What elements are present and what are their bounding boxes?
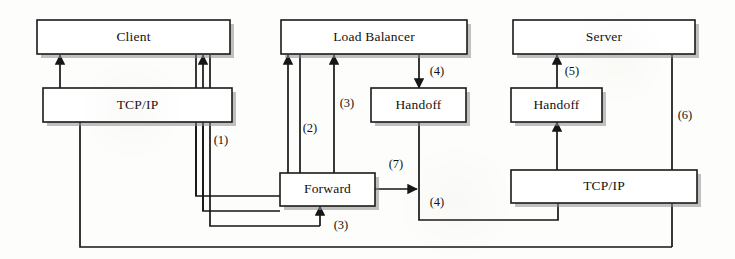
node-client-label: Client <box>116 29 150 44</box>
node-load-balancer-label: Load Balancer <box>333 29 415 44</box>
node-load-balancer[interactable]: Load Balancer <box>281 20 471 58</box>
edge-label-step7: (7) <box>389 157 404 171</box>
edge-label-step1: (1) <box>214 133 229 147</box>
edge-label-step6: (6) <box>678 108 693 122</box>
node-layer: Client TCP/IP Load Balancer Handoff <box>37 20 701 210</box>
node-client-tcpip[interactable]: TCP/IP <box>43 88 236 126</box>
node-client-tcpip-label: TCP/IP <box>117 97 159 112</box>
node-server-label: Server <box>586 29 623 44</box>
node-lb-handoff-label: Handoff <box>395 97 441 112</box>
edge-label-step3b: (3) <box>334 218 349 232</box>
node-server-handoff-label: Handoff <box>533 97 579 112</box>
edge-label-step5: (5) <box>565 64 580 78</box>
edge-layer <box>60 55 672 247</box>
node-client[interactable]: Client <box>37 20 234 58</box>
flow-diagram: Client TCP/IP Load Balancer Handoff <box>0 0 735 259</box>
node-server[interactable]: Server <box>513 20 699 58</box>
edge-label-step4b: (4) <box>430 195 445 209</box>
edge-label-step3a: (3) <box>340 96 355 110</box>
edge-label-step2: (2) <box>303 121 318 135</box>
node-forward[interactable]: Forward <box>280 173 379 210</box>
node-server-handoff[interactable]: Handoff <box>511 88 606 126</box>
node-lb-handoff[interactable]: Handoff <box>371 88 470 126</box>
node-server-tcpip-label: TCP/IP <box>583 178 625 193</box>
edge-label-step4a: (4) <box>430 64 445 78</box>
node-server-tcpip[interactable]: TCP/IP <box>511 170 701 207</box>
node-forward-label: Forward <box>304 181 351 196</box>
diagram-canvas: Client TCP/IP Load Balancer Handoff <box>0 0 735 259</box>
